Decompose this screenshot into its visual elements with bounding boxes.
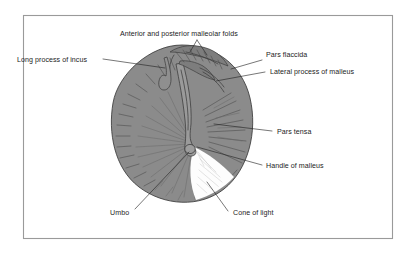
label-long-process-incus: Long process of incus	[17, 56, 87, 64]
label-handle-of-malleus: Handle of malleus	[266, 162, 324, 170]
label-lateral-process-malleus: Lateral process of malleus	[270, 68, 355, 76]
label-pars-flaccida: Pars flaccida	[266, 51, 307, 59]
tympanic-membrane-diagram: Anterior and posterior malleolar folds L…	[0, 0, 416, 253]
label-malleolar-folds: Anterior and posterior malleolar folds	[120, 30, 238, 38]
label-umbo: Umbo	[110, 209, 129, 217]
label-cone-of-light: Cone of light	[233, 209, 273, 217]
umbo-point	[185, 144, 195, 153]
anatomy-figure: Anterior and posterior malleolar folds L…	[0, 0, 416, 253]
label-pars-tensa: Pars tensa	[277, 128, 311, 136]
leader-pars-flaccida	[231, 60, 262, 69]
